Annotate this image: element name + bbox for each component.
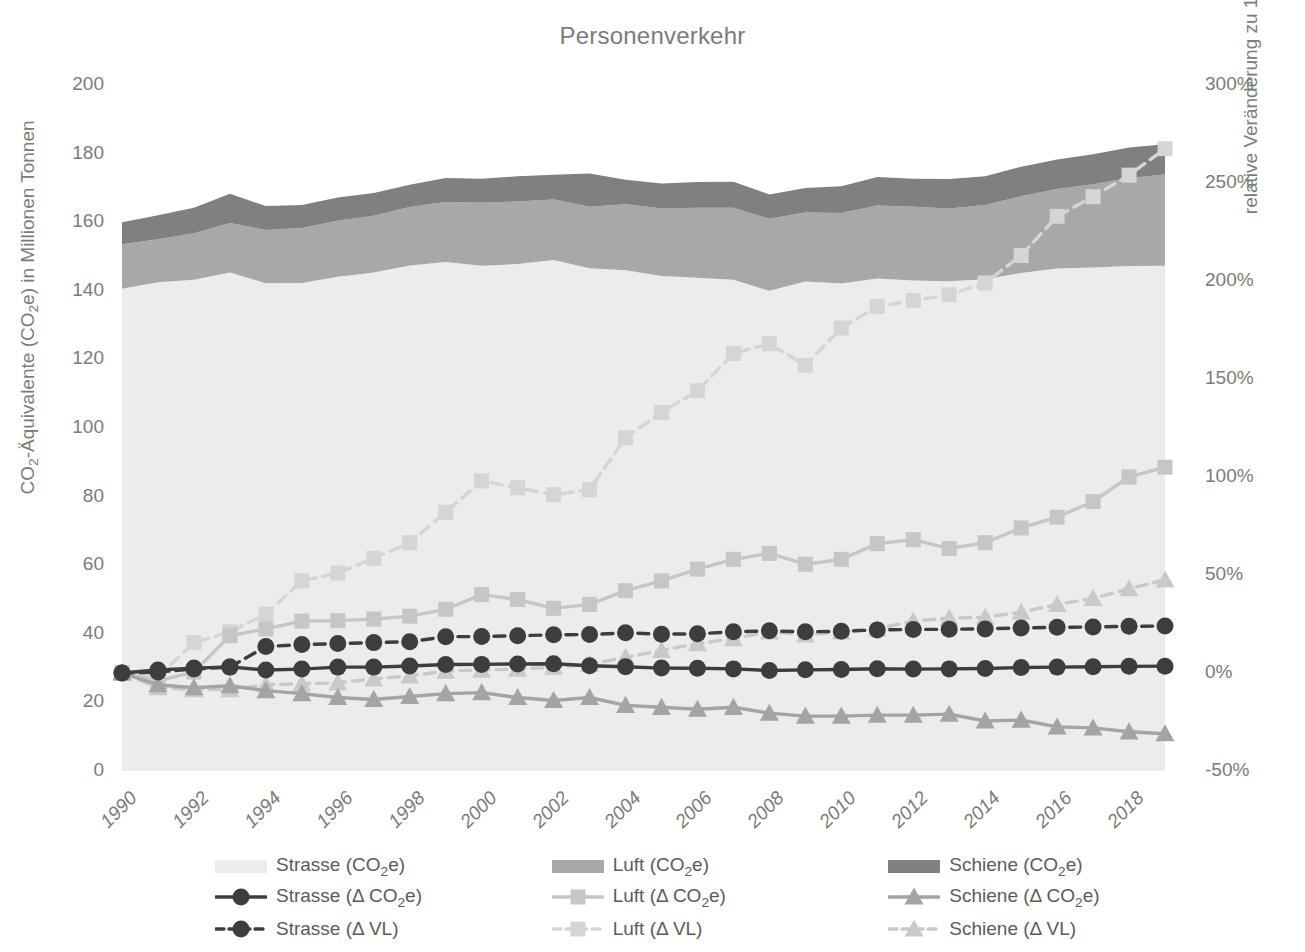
legend-item-strasse-delta-co2e[interactable]: Strasse (Δ CO2e)	[215, 885, 552, 910]
data-point	[978, 535, 993, 550]
y-right-tick-0: 0%	[1205, 661, 1279, 683]
data-point	[1086, 189, 1101, 204]
legend-label: Strasse (CO2e)	[276, 854, 405, 879]
data-point	[546, 487, 561, 502]
data-point	[761, 622, 778, 639]
data-point	[942, 541, 957, 556]
data-point	[761, 662, 778, 679]
legend-line-icon	[888, 920, 940, 938]
data-point	[437, 656, 454, 673]
y-left-tick-20: 20	[44, 690, 104, 712]
legend-item-luft-co2e[interactable]: Luft (CO2e)	[552, 854, 889, 879]
data-point	[437, 628, 454, 645]
data-point	[1085, 618, 1102, 635]
data-point	[474, 587, 489, 602]
data-point	[617, 658, 634, 675]
data-point	[1049, 659, 1066, 676]
y-right-tick-250: 250%	[1205, 171, 1279, 193]
data-point	[294, 614, 309, 629]
data-point	[1158, 141, 1173, 156]
data-point	[653, 660, 670, 677]
data-point	[690, 562, 705, 577]
data-point	[582, 482, 597, 497]
data-point	[582, 597, 597, 612]
data-point	[581, 626, 598, 643]
y-left-title-text: CO2-Äquivalente (CO2e) in Millionen Tonn…	[17, 120, 38, 494]
legend-label: Strasse (Δ CO2e)	[276, 885, 422, 910]
data-point	[834, 321, 849, 336]
legend-item-luft-delta-co2e[interactable]: Luft (Δ CO2e)	[552, 885, 889, 910]
data-point	[1158, 460, 1173, 475]
data-point	[1157, 617, 1174, 634]
data-point	[510, 480, 525, 495]
data-point	[185, 660, 202, 677]
legend-item-schiene-delta-vl[interactable]: Schiene (Δ VL)	[888, 918, 1225, 940]
data-point	[1013, 619, 1030, 636]
legend-item-luft-delta-vl[interactable]: Luft (Δ VL)	[552, 918, 889, 940]
y-right-tick--50: -50%	[1205, 759, 1279, 781]
y-left-tick-100: 100	[44, 416, 104, 438]
data-point	[654, 405, 669, 420]
y-left-tick-80: 80	[44, 485, 104, 507]
data-point	[581, 657, 598, 674]
data-point	[1085, 658, 1102, 675]
data-point	[1014, 248, 1029, 263]
data-point	[114, 665, 131, 682]
data-point	[258, 621, 273, 636]
legend-item-schiene-delta-co2e[interactable]: Schiene (Δ CO2e)	[888, 885, 1225, 910]
data-point	[365, 634, 382, 651]
data-point	[941, 660, 958, 677]
data-point	[870, 536, 885, 551]
legend-swatch-icon	[888, 860, 940, 873]
legend-item-schiene-co2e[interactable]: Schiene (CO2e)	[888, 854, 1225, 879]
data-point	[1121, 618, 1138, 635]
data-point	[906, 532, 921, 547]
data-point	[834, 552, 849, 567]
data-point	[870, 299, 885, 314]
data-point	[366, 612, 381, 627]
data-point	[546, 601, 561, 616]
y-right-tick-50: 50%	[1205, 563, 1279, 585]
legend-item-strasse-co2e[interactable]: Strasse (CO2e)	[215, 854, 552, 879]
y-left-tick-60: 60	[44, 553, 104, 575]
y-right-tick-150: 150%	[1205, 367, 1279, 389]
data-point	[618, 583, 633, 598]
y-left-tick-200: 200	[44, 73, 104, 95]
y-left-tick-180: 180	[44, 142, 104, 164]
data-point	[1050, 510, 1065, 525]
data-point	[509, 627, 526, 644]
data-point	[762, 336, 777, 351]
data-point	[1122, 470, 1137, 485]
data-point	[329, 635, 346, 652]
data-point	[366, 551, 381, 566]
data-point	[978, 275, 993, 290]
data-point	[762, 546, 777, 561]
y-left-tick-120: 120	[44, 347, 104, 369]
data-point	[1049, 619, 1066, 636]
y-left-tick-0: 0	[44, 759, 104, 781]
data-point	[1086, 494, 1101, 509]
data-point	[725, 623, 742, 640]
legend-line-icon	[215, 888, 267, 906]
legend-item-strasse-delta-vl[interactable]: Strasse (Δ VL)	[215, 918, 552, 940]
data-point	[1121, 658, 1138, 675]
data-point	[330, 566, 345, 581]
chart-page: Personenverkehr CO2-Äquivalente (CO2e) i…	[0, 0, 1305, 952]
data-point	[221, 658, 238, 675]
y-right-tick-100: 100%	[1205, 465, 1279, 487]
data-point	[438, 602, 453, 617]
data-point	[1122, 168, 1137, 183]
legend-line-icon	[552, 920, 604, 938]
data-point	[257, 638, 274, 655]
data-point	[797, 661, 814, 678]
y-axis-right-title: relative Veränderung zu 1990	[1240, 0, 1262, 300]
data-point	[473, 628, 490, 645]
data-point	[545, 626, 562, 643]
y-left-tick-160: 160	[44, 210, 104, 232]
legend-label: Schiene (CO2e)	[949, 854, 1082, 879]
data-point	[186, 635, 201, 650]
data-point	[977, 660, 994, 677]
y-left-tick-140: 140	[44, 279, 104, 301]
data-point	[1013, 659, 1030, 676]
data-point	[545, 655, 562, 672]
